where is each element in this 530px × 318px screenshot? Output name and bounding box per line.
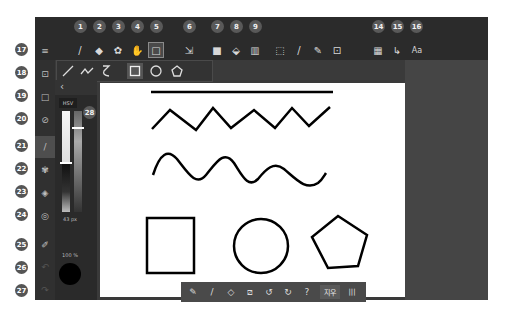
layers-grid-icon: ▦ <box>373 45 382 56</box>
annotation-badge: 3 <box>112 20 125 33</box>
undo-icon: ↺ <box>265 287 273 297</box>
menu-icon[interactable]: ≡ <box>38 44 52 58</box>
annotation-badge: 22 <box>15 162 28 175</box>
annotation-badge: 15 <box>391 20 404 33</box>
line-shape-icon[interactable] <box>60 63 76 79</box>
no-stroke-button[interactable]: ⧄ <box>243 285 257 299</box>
grid-button[interactable]: ||| <box>344 285 360 299</box>
annotation-badge: 27 <box>15 284 28 297</box>
drawing-canvas[interactable] <box>100 83 405 297</box>
hand-icon: ✋ <box>131 45 143 56</box>
eyedropper-icon[interactable]: ✐ <box>38 238 52 252</box>
pentagon-shape-icon[interactable] <box>169 63 185 79</box>
pencil-button[interactable]: / <box>205 285 219 299</box>
undo-icon[interactable]: ↶ <box>38 260 52 274</box>
collapse-panel-button[interactable]: ‹ <box>60 81 64 92</box>
brush-size-label: 43 px <box>55 216 85 222</box>
pen-icon: ✎ <box>189 287 197 297</box>
saturation-slider-handle[interactable] <box>72 127 84 129</box>
brush-icon: / <box>78 45 81 56</box>
transform-icon: ⇲ <box>185 45 193 56</box>
shape-tool-button[interactable]: □ <box>149 43 163 57</box>
pointer-icon: ↳ <box>393 45 401 56</box>
select-brush-icon: / <box>297 45 300 56</box>
clear-button[interactable]: 지우 <box>320 285 340 299</box>
text-icon: Aa <box>412 46 422 55</box>
help-icon: ? <box>305 287 310 297</box>
pointer-button[interactable]: ↳ <box>390 43 404 57</box>
undo-button[interactable]: ↺ <box>262 285 276 299</box>
canvas-drawing <box>100 83 405 297</box>
text-tool-button[interactable]: Aa <box>407 43 427 57</box>
annotation-badge: 2 <box>93 20 106 33</box>
layers-grid-button[interactable]: ▦ <box>371 43 385 57</box>
workspace-background <box>405 60 488 300</box>
annotation-badge: 28 <box>83 106 96 119</box>
no-stroke-icon: ⧄ <box>247 287 253 298</box>
eraser-tool-button[interactable]: ◆ <box>92 43 106 57</box>
polyline-shape-icon[interactable] <box>79 63 95 79</box>
annotation-badge: 4 <box>131 20 144 33</box>
annotation-badge: 20 <box>15 112 28 125</box>
canvas-settings-icon[interactable]: ⊡ <box>38 67 52 81</box>
color-mode-label[interactable]: HSV <box>59 98 77 108</box>
shape-toolbar <box>56 60 213 82</box>
bottom-toolbar: ✎ / ◇ ⧄ ↺ ↻ ? 지우 ||| <box>181 282 366 302</box>
brush-panel-icon[interactable]: / <box>35 136 55 158</box>
gradient-icon: ▥ <box>250 45 259 56</box>
annotation-badge: 1 <box>74 20 87 33</box>
pencil-icon: / <box>210 287 213 297</box>
annotation-badge: 26 <box>15 261 28 274</box>
annotation-badge: 25 <box>15 238 28 251</box>
fill-color-button[interactable]: ■ <box>210 43 224 57</box>
rectangle-shape-icon[interactable] <box>127 63 143 79</box>
gradient-button[interactable]: ▥ <box>248 43 262 57</box>
selection-icon[interactable]: □ <box>38 90 52 104</box>
hand-tool-button[interactable]: ✋ <box>130 43 144 57</box>
select-brush-button[interactable]: / <box>292 43 306 57</box>
help-button[interactable]: ? <box>300 285 314 299</box>
color-panel-header: ‹ <box>55 80 97 95</box>
annotation-badge: 6 <box>183 20 196 33</box>
annotation-badge: 24 <box>15 208 28 221</box>
select-add-icon: ⊡ <box>333 45 341 56</box>
brush-settings-icon[interactable]: ✾ <box>38 163 52 177</box>
lasso-eraser-icon: ✿ <box>114 45 122 56</box>
transform-tool-button[interactable]: ⇲ <box>182 43 196 57</box>
redo-icon[interactable]: ↷ <box>38 283 52 297</box>
current-color-swatch[interactable] <box>59 263 81 285</box>
select-add-button[interactable]: ⊡ <box>330 43 344 57</box>
layers-icon[interactable]: ◈ <box>38 186 52 200</box>
annotation-badge: 9 <box>249 20 262 33</box>
shape-icon: □ <box>151 45 160 56</box>
paint-bucket-button[interactable]: ⬙ <box>229 43 243 57</box>
select-rect-button[interactable]: ⬚ <box>273 43 287 57</box>
left-rail: ≡ ⊡ □ ⊘ / ✾ ◈ ◎ ✐ ↶ ↷ <box>35 60 55 300</box>
pen-button[interactable]: ✎ <box>186 285 200 299</box>
redo-button[interactable]: ↻ <box>281 285 295 299</box>
eraser-button[interactable]: ◇ <box>224 285 238 299</box>
no-brush-icon[interactable]: ⊘ <box>38 113 52 127</box>
select-pen-icon: ✎ <box>314 45 322 56</box>
annotation-badge: 5 <box>150 20 163 33</box>
brightness-slider-handle[interactable] <box>60 162 72 164</box>
lasso-eraser-tool-button[interactable]: ✿ <box>111 43 125 57</box>
brush-tool-button[interactable]: / <box>73 43 87 57</box>
compass-icon[interactable]: ◎ <box>38 209 52 223</box>
annotation-badge: 7 <box>211 20 224 33</box>
redo-icon: ↻ <box>284 287 292 297</box>
annotation-badge: 14 <box>372 20 385 33</box>
annotation-badge: 8 <box>230 20 243 33</box>
curve-shape-icon[interactable] <box>98 63 114 79</box>
annotation-badge: 23 <box>15 185 28 198</box>
eraser-icon: ◆ <box>95 45 103 56</box>
annotation-badge: 19 <box>15 89 28 102</box>
annotation-badge: 17 <box>15 43 28 56</box>
annotation-badge: 18 <box>15 66 28 79</box>
drawing-app: / ◆ ✿ ✋ □ ⇲ ■ ⬙ ▥ ⬚ / ✎ ⊡ ▦ ↳ Aa 1 2 3 4… <box>35 17 488 300</box>
annotation-badge: 16 <box>410 20 423 33</box>
opacity-label: 100 % <box>55 252 85 258</box>
select-pen-button[interactable]: ✎ <box>311 43 325 57</box>
circle-shape-icon[interactable] <box>148 63 164 79</box>
eraser-icon: ◇ <box>228 287 235 297</box>
